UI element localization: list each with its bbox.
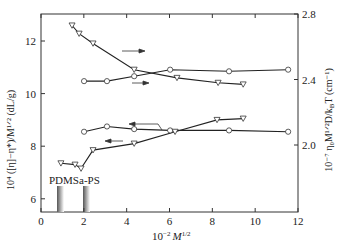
svg-text:10−2M1/2: 10−2M1/2 bbox=[152, 230, 191, 242]
y-left-label: 10⁴ ([η]−η*)/M¹ᐟ² (dL/g) bbox=[5, 90, 17, 190]
x-tick-label: 8 bbox=[210, 215, 216, 227]
curves bbox=[61, 26, 288, 169]
bar-markers: PDMS a-PS bbox=[49, 174, 100, 212]
x-tick-label: 0 bbox=[38, 215, 44, 227]
y-left-tick-label: 6 bbox=[31, 193, 37, 205]
axis-ticks: 0246810126810122.02.42.8 bbox=[25, 8, 316, 227]
circle-marker bbox=[132, 127, 137, 132]
data-markers bbox=[58, 23, 291, 171]
circle-marker bbox=[286, 67, 291, 72]
x-axis-label: 10−2M1/2 bbox=[152, 230, 191, 242]
circle-marker bbox=[286, 129, 291, 134]
y-right-tick-label: 2.4 bbox=[302, 74, 316, 86]
circle-marker bbox=[104, 79, 109, 84]
chart: PDMS a-PS 0246810126810122.02.42.8 10−2M… bbox=[0, 0, 340, 246]
aps-label: a-PS bbox=[79, 174, 100, 186]
y-left-tick-label: 8 bbox=[31, 140, 37, 152]
x-tick-label: 6 bbox=[167, 215, 173, 227]
circle-marker bbox=[104, 124, 109, 129]
x-tick-label: 4 bbox=[124, 215, 130, 227]
y-right-label: 10⁻⁷ η₀M¹ᐟ²D/kBT (cm⁻¹) bbox=[323, 68, 336, 172]
circle-marker bbox=[132, 74, 137, 79]
x-tick-label: 12 bbox=[293, 215, 304, 227]
pdms-bar bbox=[57, 186, 64, 212]
y-left-tick-label: 10 bbox=[25, 88, 37, 100]
circle-marker bbox=[168, 128, 173, 133]
pdms-label: PDMS bbox=[49, 174, 79, 186]
x-tick-label: 10 bbox=[250, 215, 262, 227]
x-tick-label: 2 bbox=[81, 215, 87, 227]
triangle-marker bbox=[78, 166, 84, 171]
circle-marker bbox=[168, 67, 173, 72]
y-right-tick-label: 2.0 bbox=[302, 139, 316, 151]
circle-marker bbox=[226, 69, 231, 74]
circle-marker bbox=[81, 129, 86, 134]
circle-marker bbox=[226, 128, 231, 133]
y-left-tick-label: 12 bbox=[25, 35, 36, 47]
y-right-tick-label: 2.8 bbox=[302, 8, 316, 20]
circle-marker bbox=[81, 79, 86, 84]
